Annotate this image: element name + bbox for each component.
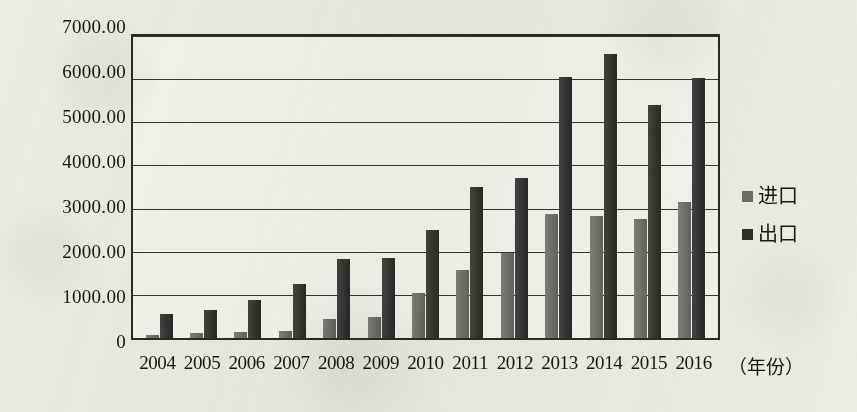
bar-export-2009[interactable] bbox=[382, 258, 395, 338]
y-tick-label: 0 bbox=[116, 332, 126, 351]
bar-export-2012[interactable] bbox=[515, 178, 528, 338]
bar-export-2007[interactable] bbox=[293, 284, 306, 338]
bar-export-2016[interactable] bbox=[692, 78, 705, 338]
bars-layer bbox=[133, 36, 718, 338]
x-tick-label: 2010 bbox=[403, 352, 448, 374]
bar-group bbox=[670, 36, 714, 338]
bar-group bbox=[581, 36, 625, 338]
bar-group bbox=[359, 36, 403, 338]
x-tick-label: 2005 bbox=[180, 352, 225, 374]
bar-import-2011[interactable] bbox=[456, 270, 469, 338]
x-tick-label: 2016 bbox=[671, 352, 716, 374]
bar-export-2008[interactable] bbox=[337, 259, 350, 338]
x-tick-label: 2006 bbox=[224, 352, 269, 374]
bar-import-2004[interactable] bbox=[146, 335, 159, 338]
bar-export-2006[interactable] bbox=[248, 300, 261, 338]
bar-group bbox=[137, 36, 181, 338]
y-tick-label: 1000.00 bbox=[62, 287, 126, 306]
y-tick-label: 6000.00 bbox=[62, 62, 126, 81]
bar-export-2005[interactable] bbox=[204, 310, 217, 338]
bar-import-2015[interactable] bbox=[634, 219, 647, 338]
bar-import-2005[interactable] bbox=[190, 333, 203, 338]
bar-group bbox=[181, 36, 225, 338]
legend-item-import[interactable]: 进口 bbox=[742, 186, 798, 206]
x-tick-label: 2015 bbox=[627, 352, 672, 374]
y-axis: 01000.002000.003000.004000.005000.006000… bbox=[8, 26, 126, 341]
bar-import-2014[interactable] bbox=[590, 216, 603, 338]
legend-label-import: 进口 bbox=[758, 186, 798, 206]
bar-import-2008[interactable] bbox=[323, 319, 336, 338]
bar-export-2010[interactable] bbox=[426, 230, 439, 338]
export-swatch-icon bbox=[742, 229, 753, 240]
bar-export-2014[interactable] bbox=[604, 54, 617, 338]
x-axis: 2004200520062007200820092010201120122013… bbox=[131, 352, 720, 374]
bar-group bbox=[492, 36, 536, 338]
bar-chart: 01000.002000.003000.004000.005000.006000… bbox=[0, 0, 857, 412]
bar-export-2013[interactable] bbox=[559, 77, 572, 338]
bar-group bbox=[226, 36, 270, 338]
y-tick-label: 4000.00 bbox=[62, 152, 126, 171]
x-axis-title: （年份） bbox=[728, 352, 804, 379]
import-swatch-icon bbox=[742, 191, 753, 202]
bar-export-2011[interactable] bbox=[470, 187, 483, 338]
legend-label-export: 出口 bbox=[758, 224, 798, 244]
y-tick-label: 7000.00 bbox=[62, 17, 126, 36]
bar-import-2013[interactable] bbox=[545, 214, 558, 338]
bar-group bbox=[270, 36, 314, 338]
x-tick-label: 2007 bbox=[269, 352, 314, 374]
x-tick-label: 2009 bbox=[358, 352, 403, 374]
y-tick-label: 5000.00 bbox=[62, 107, 126, 126]
bar-group bbox=[537, 36, 581, 338]
bar-group bbox=[315, 36, 359, 338]
x-tick-label: 2004 bbox=[135, 352, 180, 374]
x-tick-label: 2012 bbox=[493, 352, 538, 374]
x-tick-label: 2011 bbox=[448, 352, 493, 374]
x-tick-label: 2013 bbox=[537, 352, 582, 374]
bar-import-2009[interactable] bbox=[368, 317, 381, 338]
bar-export-2015[interactable] bbox=[648, 105, 661, 338]
y-tick-label: 3000.00 bbox=[62, 197, 126, 216]
plot-area bbox=[131, 34, 720, 340]
x-tick-label: 2008 bbox=[314, 352, 359, 374]
bar-group bbox=[403, 36, 447, 338]
bar-import-2007[interactable] bbox=[279, 331, 292, 338]
bar-export-2004[interactable] bbox=[160, 314, 173, 338]
bar-import-2012[interactable] bbox=[501, 253, 514, 338]
bar-import-2016[interactable] bbox=[678, 202, 691, 338]
y-tick-label: 2000.00 bbox=[62, 242, 126, 261]
bar-group bbox=[625, 36, 669, 338]
bar-group bbox=[448, 36, 492, 338]
bar-import-2006[interactable] bbox=[234, 332, 247, 338]
chart-legend: 进口 出口 bbox=[742, 186, 798, 244]
bar-import-2010[interactable] bbox=[412, 293, 425, 338]
legend-item-export[interactable]: 出口 bbox=[742, 224, 798, 244]
x-tick-label: 2014 bbox=[582, 352, 627, 374]
